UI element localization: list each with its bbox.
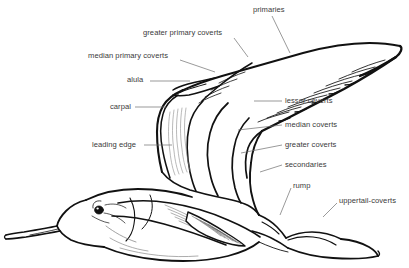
label-secondaries: secondaries xyxy=(285,160,327,169)
bird-anatomy-illustration xyxy=(0,0,409,268)
label-alula: alula xyxy=(127,75,143,84)
label-greater-coverts: greater coverts xyxy=(285,140,336,149)
label-leading-edge: leading edge xyxy=(92,140,136,149)
label-lesser-coverts: lesser coverts xyxy=(285,96,333,105)
eye-highlight xyxy=(96,208,98,210)
label-uppertail-coverts: uppertail-coverts xyxy=(339,196,396,205)
label-carpal: carpal xyxy=(110,102,131,111)
label-greater-primary-coverts: greater primary coverts xyxy=(143,28,222,37)
diagram-canvas: primaries greater primary coverts median… xyxy=(0,0,409,268)
label-rump: rump xyxy=(293,181,311,190)
label-primaries: primaries xyxy=(253,5,285,14)
label-median-coverts: median coverts xyxy=(285,120,337,129)
eye xyxy=(95,206,104,214)
label-median-primary-coverts: median primary coverts xyxy=(88,51,168,60)
